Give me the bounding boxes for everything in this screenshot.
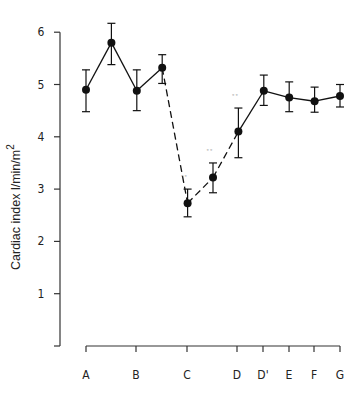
significance-marker: ◦◦ <box>207 146 214 153</box>
significance-marker: ◦◦ <box>181 172 188 179</box>
data-series: ◦◦◦◦◦◦ <box>82 23 344 217</box>
y-axis-label: Cardiac index l/min/m2 <box>5 144 23 270</box>
y-tick-label: 6 <box>38 25 45 39</box>
y-tick-label: 3 <box>38 182 45 196</box>
y-tick-label: 1 <box>38 287 45 301</box>
x-tick-label: D' <box>257 368 268 382</box>
y-tick-label: 4 <box>38 130 45 144</box>
data-point <box>158 64 166 72</box>
data-point <box>133 87 141 95</box>
x-tick-label: E <box>286 368 293 382</box>
x-tick-label: G <box>336 368 344 382</box>
data-point <box>234 128 242 136</box>
significance-marker: ◦◦ <box>232 91 239 98</box>
data-point <box>82 86 90 94</box>
data-point <box>260 87 268 95</box>
x-tick-label: A <box>82 368 90 382</box>
y-tick-label: 2 <box>38 234 45 248</box>
data-point <box>336 92 344 100</box>
data-point <box>285 94 293 102</box>
data-point <box>184 199 192 207</box>
y-axis: 123456 <box>38 25 60 346</box>
x-tick-label: C <box>183 368 191 382</box>
data-point <box>311 97 319 105</box>
x-tick-label: F <box>311 368 317 382</box>
x-axis: ABCDD'EFG <box>82 346 344 382</box>
data-point <box>209 174 217 182</box>
x-tick-label: D <box>233 368 241 382</box>
x-tick-label: B <box>132 368 139 382</box>
data-point <box>107 39 115 47</box>
cardiac-index-chart: 123456 ABCDD'EFG ◦◦◦◦◦◦ Cardiac index l/… <box>0 0 362 400</box>
y-tick-label: 5 <box>38 78 45 92</box>
